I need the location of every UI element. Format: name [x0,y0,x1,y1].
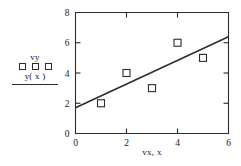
legend-line-sample-icon [12,84,58,85]
legend-square-marker-icon [45,63,52,70]
fit-line-series [76,37,229,108]
x-tick-label: 4 [175,138,180,148]
y-tick-label: 0 [65,129,70,139]
fit-line [76,37,229,108]
x-tick-label: 2 [124,138,129,148]
data-point-marker [174,39,181,46]
y-tick-label: 6 [65,38,70,48]
data-point-marker [200,54,207,61]
x-axis-title: vx, x [142,147,162,157]
y-axis-tick-labels: 02468 [65,8,70,139]
legend-square-marker-icon [32,63,39,70]
figure-container: vy y( x ) 0246 02468 vx, x [0,0,241,166]
y-tick-label: 2 [65,99,70,109]
y-tick-label: 8 [65,8,70,18]
chart-legend: vy y( x ) [6,52,64,85]
legend-scatter-label: vy [6,52,64,62]
x-axis-tick-labels: 0246 [73,138,231,148]
x-tick-label: 0 [73,138,78,148]
data-point-marker [149,85,156,92]
y-tick-label: 4 [65,69,70,79]
data-point-marker [98,100,105,107]
legend-line-label: y( x ) [6,71,64,82]
data-point-marker [123,70,130,77]
x-tick-label: 6 [226,138,231,148]
legend-square-marker-icon [19,63,26,70]
legend-scatter-markers [6,63,64,70]
